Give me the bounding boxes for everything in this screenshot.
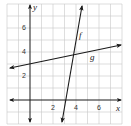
coordinate-graph: 2 4 6 2 4 6 x y f g [0,0,131,126]
x-tick-2: 2 [51,104,55,111]
y-tick-2: 2 [22,72,26,79]
y-tick-4: 4 [22,48,26,55]
x-tick-4: 4 [74,104,78,111]
line-g [10,45,121,68]
line-g-label: g [90,52,95,62]
line-f-label: f [79,30,83,40]
x-tick-6: 6 [97,104,101,111]
x-axis-label: x [115,103,120,113]
y-tick-6: 6 [22,24,26,31]
y-axis-label: y [32,2,37,12]
